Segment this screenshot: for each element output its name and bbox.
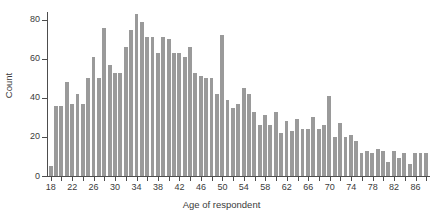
x-axis-tick-label: 18 bbox=[46, 183, 56, 192]
histogram-bar bbox=[301, 129, 305, 176]
histogram-bar bbox=[76, 94, 80, 176]
histogram-bar bbox=[92, 57, 96, 176]
histogram-bar bbox=[376, 149, 380, 176]
y-axis-tick-label: 0 bbox=[0, 172, 40, 181]
x-axis-tick bbox=[265, 176, 266, 181]
histogram-bar bbox=[424, 153, 428, 176]
x-axis-tick bbox=[126, 176, 127, 181]
x-axis-tick bbox=[147, 176, 148, 181]
x-axis-tick bbox=[351, 176, 352, 181]
x-axis-tick-label: 42 bbox=[174, 183, 184, 192]
histogram-bar bbox=[145, 37, 149, 176]
x-axis-tick bbox=[362, 176, 363, 181]
histogram-bar bbox=[124, 47, 128, 176]
histogram-bar bbox=[408, 164, 412, 176]
histogram-bar bbox=[151, 37, 155, 176]
histogram-bar bbox=[354, 141, 358, 176]
x-axis-tick-label: 50 bbox=[217, 183, 227, 192]
histogram-bar bbox=[397, 158, 401, 176]
x-axis-tick bbox=[298, 176, 299, 181]
histogram-bar bbox=[193, 73, 197, 177]
x-axis-tick bbox=[104, 176, 105, 181]
x-axis-tick bbox=[72, 176, 73, 181]
x-axis-tick bbox=[308, 176, 309, 181]
y-axis-line bbox=[47, 12, 48, 177]
y-axis-tick-label: 20 bbox=[0, 132, 40, 141]
histogram-bar bbox=[413, 153, 417, 176]
histogram-bar bbox=[402, 153, 406, 176]
x-axis-tick bbox=[373, 176, 374, 181]
x-axis-tick bbox=[287, 176, 288, 181]
y-axis-tick-label: 60 bbox=[0, 54, 40, 63]
histogram-bar bbox=[242, 88, 246, 176]
x-axis-tick-label: 82 bbox=[389, 183, 399, 192]
histogram-bar bbox=[199, 76, 203, 176]
histogram-bar bbox=[252, 112, 256, 176]
histogram-bar bbox=[49, 166, 53, 176]
histogram-bar bbox=[268, 125, 272, 176]
histogram-bar bbox=[172, 53, 176, 176]
histogram-bar bbox=[279, 133, 283, 176]
histogram-bar bbox=[247, 94, 251, 176]
histogram-bar bbox=[327, 96, 331, 176]
x-axis-tick bbox=[330, 176, 331, 181]
x-axis-tick bbox=[394, 176, 395, 181]
x-axis-tick bbox=[212, 176, 213, 181]
histogram-bar bbox=[118, 73, 122, 177]
histogram-bar bbox=[167, 39, 171, 176]
histogram-bar bbox=[97, 78, 101, 176]
x-axis-tick-label: 22 bbox=[67, 183, 77, 192]
x-axis-tick bbox=[276, 176, 277, 181]
histogram-bar bbox=[263, 115, 267, 176]
histogram-bar bbox=[113, 73, 117, 177]
x-axis-tick bbox=[416, 176, 417, 181]
histogram-bar bbox=[204, 78, 208, 176]
histogram-bar bbox=[306, 129, 310, 176]
histogram-bar-slot bbox=[423, 10, 428, 176]
histogram-bar bbox=[360, 153, 364, 176]
x-axis-tick-label: 86 bbox=[411, 183, 421, 192]
x-axis-title: Age of respondent bbox=[0, 199, 443, 210]
x-axis-tick-label: 58 bbox=[260, 183, 270, 192]
histogram-bar bbox=[102, 28, 106, 176]
histogram-bar bbox=[290, 131, 294, 176]
histogram-bar bbox=[231, 108, 235, 176]
x-axis-tick-label: 54 bbox=[239, 183, 249, 192]
plot-area bbox=[48, 10, 429, 176]
histogram-bar bbox=[54, 106, 58, 176]
histogram-bar bbox=[129, 30, 133, 176]
x-axis-tick bbox=[190, 176, 191, 181]
y-axis-tick-label: 80 bbox=[0, 15, 40, 24]
histogram-bar bbox=[135, 14, 139, 176]
histogram-bar bbox=[156, 53, 160, 176]
y-axis-title: Count bbox=[3, 66, 14, 106]
x-axis-tick bbox=[94, 176, 95, 181]
histogram-bar bbox=[236, 104, 240, 176]
x-axis-tick bbox=[201, 176, 202, 181]
x-axis-tick bbox=[51, 176, 52, 181]
x-axis-tick bbox=[383, 176, 384, 181]
histogram-bar bbox=[65, 82, 69, 176]
x-axis-tick bbox=[83, 176, 84, 181]
histogram-bar bbox=[215, 94, 219, 176]
y-axis-tick bbox=[42, 59, 48, 60]
histogram-bar bbox=[210, 78, 214, 176]
histogram-bar bbox=[344, 137, 348, 176]
x-axis-tick-label: 38 bbox=[153, 183, 163, 192]
x-axis-tick bbox=[222, 176, 223, 181]
histogram-bar bbox=[333, 137, 337, 176]
x-axis-tick bbox=[405, 176, 406, 181]
x-axis-tick bbox=[244, 176, 245, 181]
histogram-bar bbox=[285, 121, 289, 176]
y-axis-tick bbox=[42, 137, 48, 138]
histogram-bar bbox=[311, 117, 315, 176]
histogram-bar bbox=[226, 100, 230, 176]
y-axis-tick bbox=[42, 20, 48, 21]
x-axis-tick-label: 62 bbox=[282, 183, 292, 192]
histogram-bar bbox=[81, 104, 85, 176]
histogram-bar bbox=[86, 78, 90, 176]
histogram-bar bbox=[392, 151, 396, 176]
x-axis-tick-label: 74 bbox=[346, 183, 356, 192]
histogram-bar bbox=[381, 151, 385, 176]
histogram-bar bbox=[338, 123, 342, 176]
